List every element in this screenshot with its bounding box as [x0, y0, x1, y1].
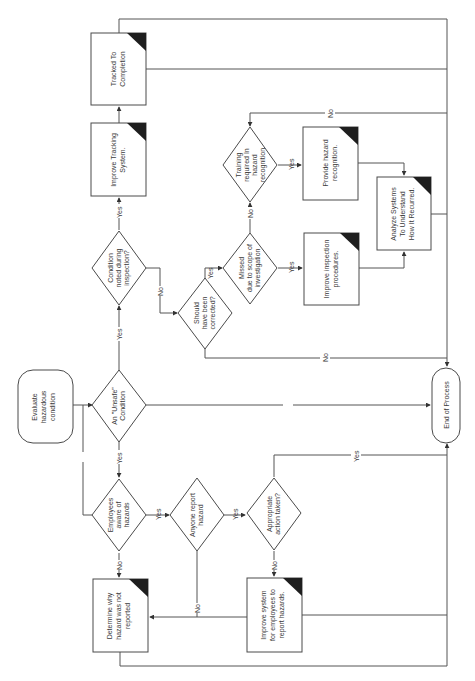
svg-text:An "Unsafe"Condition: An "Unsafe"Condition: [111, 387, 126, 425]
label-noted-yes: Yes: [116, 206, 123, 218]
svg-text:Provide hazardrecognition.: Provide hazardrecognition.: [322, 139, 339, 186]
edge-tracked-top-end: [119, 19, 447, 33]
svg-text:End of Process: End of Process: [443, 381, 450, 429]
node-improve-system-reporting: Improve systemfor employees toreport haz…: [247, 578, 302, 652]
svg-text:Evaluatehazardouscondition: Evaluatehazardouscondition: [31, 390, 56, 423]
node-analyze-systems: Analyze SystemsTo UnderstandHow It Recur…: [377, 177, 431, 250]
node-training-required-decision: Trainingrequired Inhazardrecognition: [223, 127, 277, 202]
connectors: [73, 19, 447, 666]
svg-text:Tracked ToCompletion: Tracked ToCompletion: [110, 51, 127, 87]
edge-inspection-analyze: [359, 252, 404, 268]
svg-text:Analyze SystemsTo UnderstandHo: Analyze SystemsTo UnderstandHow It Recur…: [390, 187, 415, 241]
node-condition-noted-decision: Conditionnoted duringinspection?: [92, 231, 146, 305]
node-tracked-to-completion: Tracked ToCompletion: [91, 33, 146, 105]
label-appropriate-yes: Yes: [353, 450, 360, 462]
label-should-no: No: [322, 353, 329, 362]
node-should-corrected-decision: Shouldhave beencorrected?: [178, 278, 232, 349]
node-missed-scope-decision: Misseddue to scope ofinvestigation: [223, 233, 277, 304]
svg-text:Conditionnoted duringinspectio: Conditionnoted duringinspection?: [107, 248, 131, 287]
label-unsafe-yes-down: Yes: [116, 452, 123, 464]
svg-text:Appropriateaction taken?: Appropriateaction taken?: [266, 493, 281, 535]
node-evaluate-hazardous-condition: Evaluatehazardouscondition: [18, 370, 73, 443]
node-appropriate-action-decision: Appropriateaction taken?: [247, 478, 301, 550]
node-employees-aware-decision: Employeesaware ofhazards: [92, 479, 146, 551]
flowchart-canvas: Yes Yes No Yes No Yes No Yes No Yes Yes …: [0, 0, 475, 681]
edge-determine-loop: [120, 652, 447, 666]
label-missed-no: No: [247, 209, 254, 218]
svg-text:Improve systemfor employees to: Improve systemfor employees toreport haz…: [260, 589, 286, 641]
label-missed-yes: Yes: [288, 261, 295, 273]
node-anyone-report-decision: Anyone reporthazard: [170, 478, 224, 551]
label-anyone-yes: Yes: [232, 508, 239, 520]
node-unsafe-condition-decision: An "Unsafe"Condition: [92, 370, 146, 442]
label-training-no: No: [327, 109, 334, 118]
label-noted-no: No: [157, 287, 164, 296]
node-improve-tracking-system: Improve TrackingSystem.: [91, 123, 146, 196]
node-provide-hazard-recognition: Provide hazardrecognition.: [303, 127, 358, 200]
edge-provide-analyze: [358, 163, 404, 175]
label-appropriate-no: No: [271, 561, 278, 570]
node-improve-inspection-procedures: Improve inspectionprocedures.: [304, 233, 359, 305]
label-training-yes: Yes: [288, 158, 295, 170]
edge-training-no: [250, 113, 447, 126]
label-employees-yes: Yes: [155, 508, 162, 520]
node-end-of-process: End of Process: [432, 368, 460, 443]
label-should-yes: Yes: [207, 267, 214, 279]
node-determine-why: Determine whyhazard was notreported: [93, 579, 148, 652]
label-anyone-no: No: [194, 604, 201, 613]
label-unsafe-yes-up: Yes: [116, 328, 123, 340]
label-employees-no: No: [116, 561, 123, 570]
